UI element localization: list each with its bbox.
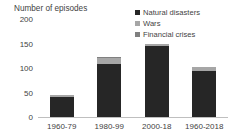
stacked-bar [50, 95, 74, 118]
x-axis-category-label: 1960-2018 [181, 122, 229, 132]
x-axis-category-label: 1980-99 [86, 122, 134, 132]
x-axis-category-labels: 1960-791980-992000-181960-2018 [38, 122, 228, 132]
bar-segment [97, 64, 121, 118]
y-axis-tick-labels: 050100150200 [0, 0, 36, 140]
x-axis-category-label: 2000-18 [133, 122, 181, 132]
legend-item: Natural disasters [135, 8, 200, 17]
y-axis-tick-label: 0 [29, 114, 33, 122]
x-axis-baseline [38, 117, 228, 118]
stacked-bar-chart: Number of episodes 050100150200 Natural … [0, 0, 235, 140]
bar-group [86, 20, 134, 118]
bar-series-container [38, 20, 228, 118]
stacked-bar [145, 44, 169, 118]
bar-segment [50, 97, 74, 118]
stacked-bar [97, 57, 121, 118]
bar-segment [145, 46, 169, 118]
x-axis-category-label: 1960-79 [38, 122, 86, 132]
bar-group [133, 20, 181, 118]
y-axis-tick-label: 150 [20, 41, 33, 49]
y-axis-tick-label: 200 [20, 16, 33, 24]
y-axis-tick-label: 100 [20, 65, 33, 73]
bar-group [181, 20, 229, 118]
square-marker [135, 10, 140, 15]
legend-item-label: Natural disasters [143, 8, 200, 17]
plot-area [38, 20, 228, 118]
y-axis-tick-label: 50 [24, 90, 33, 98]
bar-group [38, 20, 86, 118]
stacked-bar [192, 67, 216, 118]
bar-segment [192, 71, 216, 118]
